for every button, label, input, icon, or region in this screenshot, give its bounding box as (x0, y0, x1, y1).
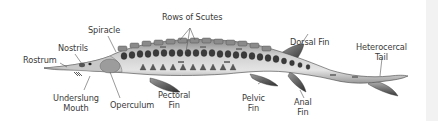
label-operculum: Operculum (110, 100, 154, 110)
label-anal-line2: Fin (294, 107, 312, 117)
label-pelvic-fin: Pelvic Fin (242, 93, 265, 113)
barbels (74, 72, 82, 76)
eye (88, 63, 91, 65)
sturgeon-diagram: Rostrum Nostrils Spiracle Rows of Scutes… (0, 0, 438, 121)
label-anal-line1: Anal (294, 97, 312, 107)
label-heterocercal-line1: Heterocercal (356, 42, 407, 52)
leader-mouth (84, 76, 90, 90)
label-spiracle: Spiracle (88, 25, 120, 35)
label-pectoral-line2: Fin (158, 100, 190, 110)
label-heterocercal-tail: Heterocercal Tail (356, 42, 407, 62)
label-pelvic-line2: Fin (242, 103, 265, 113)
operculum-plate (100, 59, 120, 73)
label-mouth-line1: Underslung (53, 93, 99, 103)
label-pectoral-line1: Pectoral (158, 90, 190, 100)
nostril (79, 63, 85, 67)
label-mouth-line2: Mouth (53, 103, 99, 113)
leader-nostrils (75, 54, 82, 64)
label-pelvic-line1: Pelvic (242, 93, 265, 103)
label-dorsal-fin: Dorsal Fin (290, 37, 329, 47)
label-nostrils: Nostrils (58, 43, 88, 53)
label-heterocercal-line2: Tail (356, 52, 407, 62)
label-anal-fin: Anal Fin (294, 97, 312, 117)
label-rostrum: Rostrum (23, 55, 57, 65)
label-rows-of-scutes: Rows of Scutes (162, 12, 222, 22)
label-pectoral-fin: Pectoral Fin (158, 90, 190, 110)
anal-fin (288, 72, 306, 92)
leader-operculum (110, 72, 120, 98)
label-underslung-mouth: Underslung Mouth (53, 93, 99, 113)
leader-spiracle (108, 36, 116, 52)
